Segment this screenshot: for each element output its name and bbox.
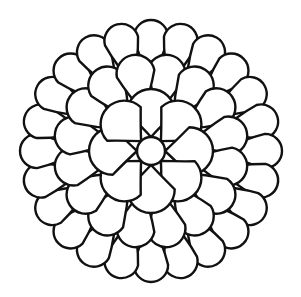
coloring-page-canvas: [0, 0, 301, 297]
flower-mandala-drawing: [0, 0, 301, 297]
center-circle: [137, 137, 165, 165]
